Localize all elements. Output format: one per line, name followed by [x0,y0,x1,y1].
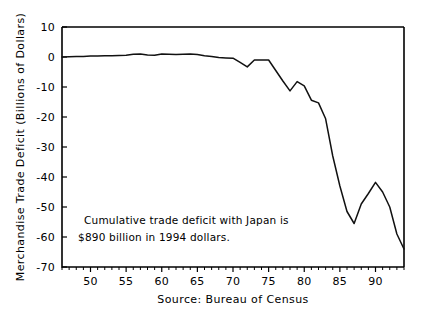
y-tick-label: -20 [36,111,55,124]
y-tick-label: -60 [36,231,55,244]
y-tick-label: -10 [36,81,55,94]
annotation-line-1: Cumulative trade deficit with Japan is [84,214,289,226]
x-tick-label: 90 [368,275,383,288]
y-tick-label: 0 [48,51,55,64]
x-axis-tick-labels: 505560657075808590 [83,275,383,288]
chart-background [0,0,426,321]
trade-deficit-line-chart: 505560657075808590 100-10-20-30-40-50-60… [0,0,426,321]
y-tick-label: -30 [36,141,55,154]
x-tick-label: 65 [190,275,205,288]
y-tick-label: -50 [36,201,55,214]
x-tick-label: 85 [333,275,348,288]
x-tick-label: 80 [297,275,312,288]
y-tick-label: 10 [40,21,55,34]
y-tick-label: -70 [36,261,55,274]
x-tick-label: 75 [261,275,276,288]
y-tick-label: -40 [36,171,55,184]
x-tick-label: 55 [119,275,134,288]
chart-container: 505560657075808590 100-10-20-30-40-50-60… [0,0,426,321]
x-tick-label: 60 [154,275,169,288]
x-tick-label: 70 [226,275,241,288]
y-axis-title: Merchandise Trade Deficit (Billions of D… [14,13,27,282]
annotation-line-2: $890 billion in 1994 dollars. [78,231,230,243]
x-axis-title: Source: Bureau of Census [157,293,308,306]
x-tick-label: 50 [83,275,98,288]
